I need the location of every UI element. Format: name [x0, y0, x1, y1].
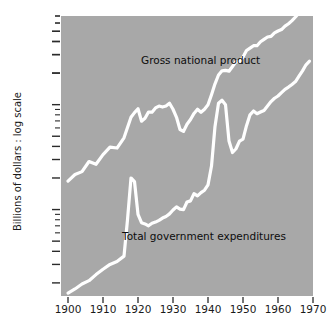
x-tick-label: 1930	[160, 303, 187, 315]
x-tick-label: 1960	[265, 303, 292, 315]
x-tick-label: 1940	[195, 303, 222, 315]
series-line	[68, 3, 310, 181]
data-series-lines	[68, 3, 310, 293]
y-axis-tick-labels: 23451020304050100200300400500	[0, 0, 56, 323]
x-tick-label: 1900	[55, 303, 82, 315]
x-tick-label: 1920	[125, 303, 152, 315]
x-tick-label: 1910	[90, 303, 117, 315]
y-axis-title: Billions of dollars : log scale	[12, 87, 23, 237]
series-line	[68, 61, 310, 293]
series-label-gnp: Gross national product	[141, 54, 260, 66]
series-label-government: Total government expenditures	[122, 230, 286, 242]
x-tick-label: 1970	[300, 303, 327, 315]
chart-container: 23451020304050100200300400500 1900191019…	[0, 0, 336, 323]
x-tick-label: 1950	[230, 303, 257, 315]
